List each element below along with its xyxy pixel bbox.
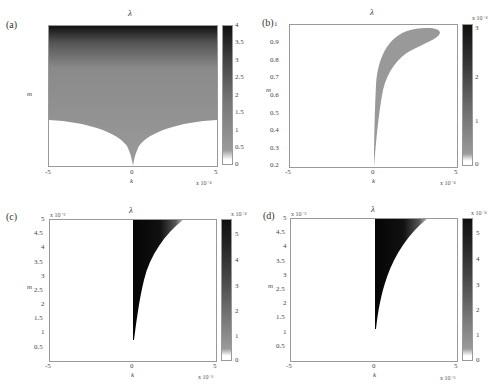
colorbar-exponent: x 10⁻⁴ — [472, 14, 488, 21]
colorbar-exponent: x 10⁻⁴ — [231, 210, 247, 217]
plot-title: λ — [371, 204, 375, 214]
heatmap-plot-area — [49, 219, 217, 362]
y-axis-label: m — [266, 86, 271, 94]
y-axis-label: m — [27, 90, 32, 98]
panel-label: (b) — [262, 17, 274, 28]
x-axis-label: k — [130, 177, 133, 185]
y-axis-label: m — [268, 282, 273, 290]
colorbar-exponent: x 10⁻⁴ — [471, 209, 487, 216]
y-exponent: x 10⁻³ — [291, 210, 306, 217]
plot-title: λ — [370, 7, 374, 17]
x-exponent: x 10⁻⁴ — [196, 179, 212, 186]
y-axis-label: m — [27, 283, 32, 291]
panel-label: (c) — [6, 211, 17, 222]
colorbar — [462, 218, 473, 361]
panel-label: (d) — [263, 210, 275, 221]
x-axis-label: k — [373, 371, 376, 379]
x-exponent: x 10⁻⁶ — [440, 374, 456, 381]
colorbar — [222, 25, 233, 165]
panel-label: (a) — [6, 19, 17, 30]
heatmap-plot-area — [290, 218, 458, 362]
colorbar — [462, 24, 473, 166]
heatmap-plot-area — [289, 24, 458, 168]
plot-title: λ — [129, 205, 133, 215]
x-axis-label: k — [372, 177, 375, 185]
x-exponent: x 10⁻⁴ — [440, 179, 456, 186]
y-exponent: x 10⁻³ — [50, 211, 65, 218]
plot-title: λ — [128, 8, 132, 18]
x-axis-label: k — [131, 371, 134, 379]
heatmap-plot-area — [48, 25, 218, 167]
x-exponent: x 10⁻⁶ — [198, 373, 214, 380]
colorbar — [221, 219, 232, 361]
